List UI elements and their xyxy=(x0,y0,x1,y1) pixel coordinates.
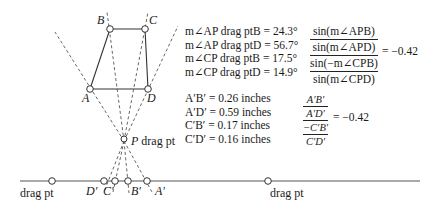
line-drag-point-right[interactable] xyxy=(265,178,272,185)
fraction-bar xyxy=(310,39,378,40)
length-den-bottom: C′D′ xyxy=(303,136,328,147)
length-num-bottom: A′D′ xyxy=(303,108,328,119)
fraction-bar xyxy=(303,106,328,107)
length-ratio-fraction: A′B′ A′D′ −C′B′ C′D′ xyxy=(303,94,328,147)
label-A-prime: A′ xyxy=(155,185,165,197)
point-C[interactable] xyxy=(142,26,149,33)
length-measurement: A′B′ = 0.26 inches xyxy=(185,92,271,106)
angle-measurement: m∠CP drag ptD = 14.9° xyxy=(185,66,298,80)
sine-ratio-result: = −0.42 xyxy=(382,45,418,57)
ray-PBprime xyxy=(124,141,129,193)
label-left-drag-pt: drag pt xyxy=(20,187,54,199)
segment-CD xyxy=(145,29,148,89)
sine-den-top: sin(−m∠CPB) xyxy=(310,57,378,70)
ray-PD xyxy=(124,26,178,141)
point-P[interactable] xyxy=(121,136,127,142)
label-C-prime: C′ xyxy=(103,185,114,197)
line-drag-point-left[interactable] xyxy=(49,178,56,185)
label-D: D xyxy=(147,92,156,104)
angle-measurement: m∠CP drag ptB = 17.5° xyxy=(185,52,298,66)
point-A-prime xyxy=(144,178,151,185)
segment-AB xyxy=(90,29,110,89)
angle-measurements: m∠AP drag ptB = 24.3° m∠AP drag ptD = 56… xyxy=(185,25,298,79)
label-B-prime: B′ xyxy=(131,185,141,197)
label-D-prime: D′ xyxy=(86,185,97,197)
sine-ratio-fraction: sin(m∠APB) sin(m∠APD) sin(−m∠CPB) sin(m∠… xyxy=(310,25,378,86)
label-right-drag-pt: drag pt xyxy=(270,187,304,199)
label-P-suffix: drag pt xyxy=(138,134,175,148)
label-C: C xyxy=(149,14,157,26)
length-measurements: A′B′ = 0.26 inches A′D′ = 0.59 inches C′… xyxy=(185,92,271,146)
sine-den-bottom: sin(m∠CPD) xyxy=(310,73,378,86)
length-ratio-result: = −0.42 xyxy=(333,111,369,123)
fraction-bar xyxy=(303,134,328,135)
length-measurement: C′B′ = 0.17 inches xyxy=(185,119,271,133)
length-measurement: C′D′ = 0.16 inches xyxy=(185,133,271,147)
label-P: P drag pt xyxy=(131,135,175,147)
fraction-bar xyxy=(310,71,378,72)
length-den-top: −C′B′ xyxy=(303,122,328,133)
sine-num-bottom: sin(m∠APD) xyxy=(310,41,378,54)
sine-num-top: sin(m∠APB) xyxy=(310,25,378,38)
label-B: B xyxy=(97,14,104,26)
length-measurement: A′D′ = 0.59 inches xyxy=(185,106,271,120)
angle-measurement: m∠AP drag ptD = 56.7° xyxy=(185,39,298,53)
main-fraction-bar xyxy=(303,120,328,121)
angle-measurement: m∠AP drag ptB = 24.3° xyxy=(185,25,298,39)
projection-rays xyxy=(55,12,178,193)
main-fraction-bar xyxy=(310,55,378,56)
label-A: A xyxy=(82,92,89,104)
length-num-top: A′B′ xyxy=(303,94,328,105)
point-B[interactable] xyxy=(107,26,114,33)
